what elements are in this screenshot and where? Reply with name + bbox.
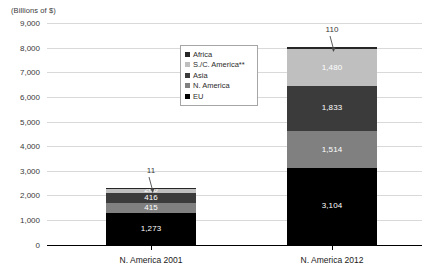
legend-swatch-icon bbox=[185, 73, 190, 78]
bar-2012: 3,1041,5141,8331,480 bbox=[287, 47, 377, 245]
bar-segment-africa bbox=[287, 47, 377, 50]
x-axis-category-label: N. America 2001 bbox=[120, 255, 183, 265]
segment-value-label: 415 bbox=[144, 204, 158, 212]
legend-item-asia: Asia bbox=[185, 70, 253, 81]
y-axis-tick-label: 8,000 bbox=[0, 43, 40, 52]
y-axis-tick-label: 4,000 bbox=[0, 142, 40, 151]
y-axis-tick-label: 7,000 bbox=[0, 68, 40, 77]
segment-value-label: 1,480 bbox=[322, 64, 343, 72]
segment-value-label: 416 bbox=[144, 194, 158, 202]
legend-item-eu: EU bbox=[185, 91, 253, 102]
legend-item-africa: Africa bbox=[185, 49, 253, 60]
africa-callout-label: 11 bbox=[147, 166, 155, 175]
x-axis-tick bbox=[332, 246, 333, 250]
chart-legend: AfricaS./C. America**AsiaN. AmericaEU bbox=[180, 45, 258, 106]
bar-segment-asia: 416 bbox=[106, 193, 196, 203]
legend-item-label: S./C. America** bbox=[193, 61, 245, 69]
y-axis-tick-label: 3,000 bbox=[0, 166, 40, 175]
segment-value-label: 200 bbox=[144, 188, 158, 193]
bar-segment-n-america: 1,514 bbox=[287, 131, 377, 168]
segment-value-label: 1,833 bbox=[322, 104, 343, 112]
gridline bbox=[47, 23, 422, 24]
x-axis-tick bbox=[151, 246, 152, 250]
y-axis-tick-label: 0 bbox=[0, 240, 40, 249]
legend-item-label: Africa bbox=[193, 51, 212, 59]
bar-segment-n-america: 415 bbox=[106, 203, 196, 213]
legend-item-label: Asia bbox=[193, 72, 208, 80]
segment-value-label: 1,273 bbox=[141, 225, 162, 233]
bar-2001: 1,273415416200 bbox=[106, 188, 196, 245]
x-axis-baseline bbox=[47, 245, 422, 246]
y-axis-tick-label: 5,000 bbox=[0, 117, 40, 126]
y-axis-title: (Billions of $) bbox=[11, 6, 56, 15]
legend-item-label: N. America bbox=[193, 82, 230, 90]
x-axis-category-label: N. America 2012 bbox=[301, 255, 364, 265]
legend-swatch-icon bbox=[185, 94, 190, 99]
y-axis-tick-label: 6,000 bbox=[0, 92, 40, 101]
legend-item-n-america: N. America bbox=[185, 81, 253, 92]
legend-swatch-icon bbox=[185, 52, 190, 57]
legend-item-s-c-america: S./C. America** bbox=[185, 60, 253, 71]
stacked-bar-chart: (Billions of $) 9,0008,0007,0006,0005,00… bbox=[0, 0, 427, 274]
y-axis-tick-label: 1,000 bbox=[0, 216, 40, 225]
bar-segment-s-c-america: 1,480 bbox=[287, 49, 377, 85]
bar-segment-eu: 3,104 bbox=[287, 168, 377, 244]
segment-value-label: 3,104 bbox=[322, 202, 343, 210]
legend-swatch-icon bbox=[185, 83, 190, 88]
y-axis-tick-label: 2,000 bbox=[0, 191, 40, 200]
africa-callout-label: 110 bbox=[326, 25, 339, 34]
legend-swatch-icon bbox=[185, 62, 190, 67]
segment-value-label: 1,514 bbox=[322, 146, 343, 154]
bar-segment-s-c-america: 200 bbox=[106, 188, 196, 193]
legend-item-label: EU bbox=[193, 93, 203, 101]
y-axis-tick-label: 9,000 bbox=[0, 19, 40, 28]
bar-segment-eu: 1,273 bbox=[106, 213, 196, 244]
bar-segment-asia: 1,833 bbox=[287, 86, 377, 131]
